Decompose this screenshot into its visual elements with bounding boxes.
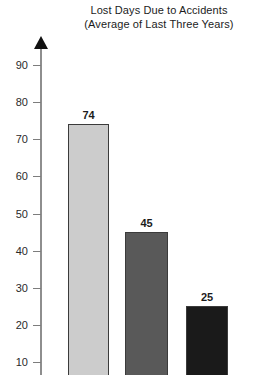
y-axis-tick (33, 102, 41, 103)
y-axis-tick (33, 288, 41, 289)
bar-chart-figure: Lost Days Due to Accidents (Average of L… (0, 0, 263, 375)
bar (68, 124, 109, 375)
bar (125, 232, 168, 375)
y-axis-tick (33, 65, 41, 66)
y-axis-tick-label: 10 (2, 357, 28, 368)
y-axis-tick (33, 325, 41, 326)
y-axis-tick-label: 20 (2, 320, 28, 331)
bar-value-label: 25 (186, 292, 228, 303)
y-axis-tick (33, 214, 41, 215)
y-axis-tick (33, 176, 41, 177)
y-axis-tick (33, 251, 41, 252)
y-axis-tick-label: 60 (2, 171, 28, 182)
y-axis-tick-label: 70 (2, 134, 28, 145)
y-axis-tick-label: 30 (2, 283, 28, 294)
plot-area: 908070605040302010 744525 (0, 0, 263, 375)
bar (186, 306, 228, 375)
y-axis-tick (33, 362, 41, 363)
y-axis-tick (33, 139, 41, 140)
bar-value-label: 74 (68, 110, 109, 121)
y-axis-tick-label: 90 (2, 60, 28, 71)
y-axis-arrow-icon (34, 36, 48, 49)
y-axis-tick-label: 50 (2, 209, 28, 220)
y-axis-tick-label: 40 (2, 246, 28, 257)
bar-value-label: 45 (125, 218, 168, 229)
y-axis-tick-label: 80 (2, 97, 28, 108)
